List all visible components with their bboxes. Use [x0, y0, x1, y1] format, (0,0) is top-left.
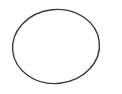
o-ring	[9, 5, 103, 88]
o-ring-graphic	[0, 0, 122, 94]
product-image	[0, 0, 122, 94]
